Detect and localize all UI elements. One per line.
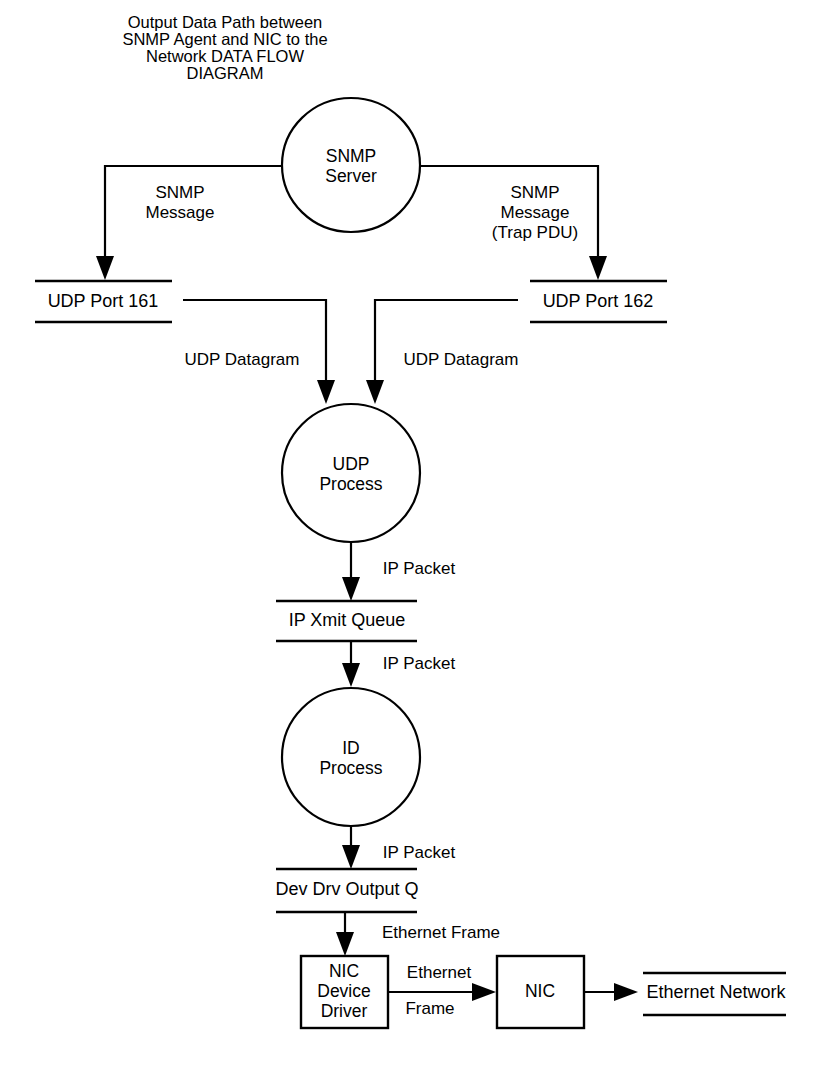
snmp-message-right-line-3: (Trap PDU) <box>492 223 578 242</box>
flow-ethernet-frame-mid: Ethernet Frame <box>388 963 496 1018</box>
nic-device-driver-label-line-1: NIC <box>329 961 359 981</box>
udp-process-label-line-2: Process <box>319 474 382 494</box>
arrowhead-ip-packet-3 <box>342 845 360 869</box>
flow-ip-packet-2: IP Packet <box>342 641 455 687</box>
store-dev-drv-output-q[interactable]: Dev Drv Output Q <box>275 869 418 912</box>
snmp-server-label-line-2: Server <box>325 166 377 186</box>
flow-snmp-message-left: SNMP Message <box>96 166 282 280</box>
flow-ip-packet-1: IP Packet <box>342 542 455 601</box>
title-line-3: Network DATA FLOW <box>146 47 304 65</box>
flow-nic-to-ethernet-network <box>584 983 638 1001</box>
snmp-message-left-line-2: Message <box>146 203 215 222</box>
id-process-label-line-2: Process <box>319 758 382 778</box>
ethernet-frame-mid-line-1: Ethernet <box>407 963 472 982</box>
ip-xmit-queue-label: IP Xmit Queue <box>289 610 406 630</box>
node-nic-device-driver[interactable]: NIC Device Driver <box>301 956 388 1028</box>
flow-udp-datagram-left: UDP Datagram <box>183 300 335 404</box>
nic-label: NIC <box>525 981 555 1001</box>
store-ip-xmit-queue[interactable]: IP Xmit Queue <box>276 601 417 641</box>
snmp-message-right-line-1: SNMP <box>510 183 559 202</box>
arrowhead-snmp-message-right <box>589 256 607 280</box>
arrowhead-udp-datagram-right <box>366 380 384 404</box>
nic-device-driver-label-line-3: Driver <box>321 1001 368 1021</box>
udp-datagram-left-label: UDP Datagram <box>185 350 300 369</box>
data-flow-diagram: Output Data Path between SNMP Agent and … <box>0 0 816 1072</box>
ethernet-network-label: Ethernet Network <box>646 982 786 1002</box>
title-line-1: Output Data Path between <box>128 13 322 31</box>
arrowhead-ethernet-frame-mid <box>472 983 496 1001</box>
ethernet-frame-top-label: Ethernet Frame <box>382 923 500 942</box>
arrowhead-ip-packet-2 <box>342 663 360 687</box>
flow-udp-datagram-right: UDP Datagram <box>366 300 518 404</box>
store-udp-port-161[interactable]: UDP Port 161 <box>35 281 172 322</box>
flow-ip-packet-3: IP Packet <box>342 826 455 869</box>
node-udp-process[interactable]: UDP Process <box>282 404 420 542</box>
store-ethernet-network[interactable]: Ethernet Network <box>643 973 787 1015</box>
udp-process-label-line-1: UDP <box>333 454 370 474</box>
dev-drv-output-q-label: Dev Drv Output Q <box>275 879 418 899</box>
node-nic[interactable]: NIC <box>497 956 584 1028</box>
arrowhead-udp-datagram-left <box>317 380 335 404</box>
node-id-process[interactable]: ID Process <box>282 688 420 826</box>
nic-device-driver-label-line-2: Device <box>317 981 371 1001</box>
udp-port-162-label: UDP Port 162 <box>543 291 654 311</box>
ip-packet-3-label: IP Packet <box>383 843 456 862</box>
ip-packet-1-label: IP Packet <box>383 559 456 578</box>
arrowhead-ethernet-frame-top <box>336 932 354 956</box>
diagram-title: Output Data Path between SNMP Agent and … <box>122 13 327 82</box>
store-udp-port-162[interactable]: UDP Port 162 <box>530 281 667 322</box>
snmp-message-left-line-1: SNMP <box>155 183 204 202</box>
title-line-4: DIAGRAM <box>186 64 263 82</box>
flow-line-udp-datagram-left <box>183 300 326 385</box>
snmp-server-label-line-1: SNMP <box>326 146 377 166</box>
udp-datagram-right-label: UDP Datagram <box>404 350 519 369</box>
flow-ethernet-frame-top: Ethernet Frame <box>336 912 500 956</box>
ethernet-frame-mid-line-2: Frame <box>405 999 454 1018</box>
flow-snmp-message-right: SNMP Message (Trap PDU) <box>420 166 607 280</box>
title-line-2: SNMP Agent and NIC to the <box>122 30 327 48</box>
diagram-canvas: Output Data Path between SNMP Agent and … <box>0 0 816 1072</box>
ip-packet-2-label: IP Packet <box>383 654 456 673</box>
arrowhead-nic-to-ethernet-network <box>614 983 638 1001</box>
flow-line-udp-datagram-right <box>375 300 518 385</box>
udp-port-161-label: UDP Port 161 <box>48 291 159 311</box>
id-process-label-line-1: ID <box>342 738 360 758</box>
node-snmp-server[interactable]: SNMP Server <box>282 98 420 232</box>
snmp-message-right-line-2: Message <box>501 203 570 222</box>
arrowhead-snmp-message-left <box>96 256 114 280</box>
arrowhead-ip-packet-1 <box>342 577 360 601</box>
